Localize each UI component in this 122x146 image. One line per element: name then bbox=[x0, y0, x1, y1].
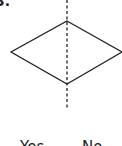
diagram-canvas bbox=[0, 0, 122, 146]
no-branch-label: No bbox=[82, 140, 102, 146]
step-number: 3. bbox=[0, 0, 10, 8]
yes-branch-label: Yes bbox=[20, 140, 44, 146]
